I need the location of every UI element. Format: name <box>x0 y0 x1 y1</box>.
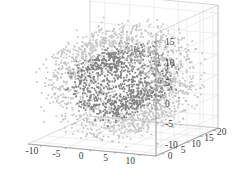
y-tick-label: 10 <box>191 139 201 149</box>
z-tick-label: 5 <box>165 78 170 88</box>
z-tick-label: 0 <box>165 99 170 109</box>
scatter-plot-figure: -10-5051005101520-10-5051015 <box>0 0 241 180</box>
y-tick-label: 20 <box>217 127 227 137</box>
z-tick-label: 15 <box>165 37 175 47</box>
z-tick-label: -5 <box>165 119 173 129</box>
z-tick-label: -10 <box>165 140 178 150</box>
x-tick-label: -10 <box>25 146 38 156</box>
x-tick-label: -5 <box>52 149 60 159</box>
x-tick-label: 0 <box>79 151 84 161</box>
z-tick-label: 10 <box>165 58 175 68</box>
y-tick-label: 15 <box>204 133 214 143</box>
x-tick-label: 10 <box>126 156 136 166</box>
y-tick-label: 0 <box>168 151 173 161</box>
plot-canvas: -10-5051005101520-10-5051015 <box>0 0 241 180</box>
x-tick-label: 5 <box>103 153 108 163</box>
y-tick-label: 5 <box>181 145 186 155</box>
